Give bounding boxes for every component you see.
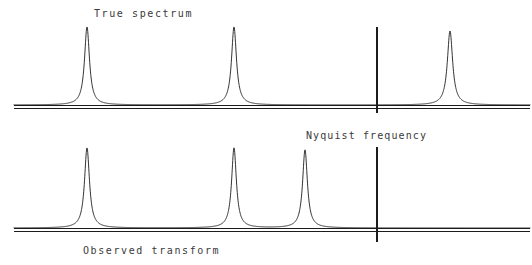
true-spectrum-trace <box>14 27 530 105</box>
panel-observed-transform: Nyquist frequency Observed transform <box>14 130 530 256</box>
nyquist-frequency-label: Nyquist frequency <box>306 130 427 141</box>
observed-transform-label: Observed transform <box>83 245 220 256</box>
panel-true-spectrum: True spectrum <box>14 8 530 113</box>
observed-transform-trace <box>14 148 530 228</box>
true-spectrum-label: True spectrum <box>94 8 193 19</box>
plot-canvas: True spectrum Nyquist frequency Observed… <box>0 0 532 265</box>
spectrum-figure: True spectrum Nyquist frequency Observed… <box>0 0 532 265</box>
